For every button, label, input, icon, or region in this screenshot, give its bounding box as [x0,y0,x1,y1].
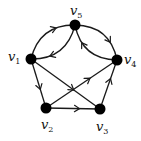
node-v1 [26,54,37,65]
node-v5 [70,20,81,31]
label-v1: v1 [8,50,20,66]
label-v2: v2 [41,118,53,134]
nodes [26,20,123,115]
edges [31,25,117,109]
edge-v2-v3 [46,108,100,109]
arrowheads [36,27,112,112]
label-v3: v3 [96,120,108,136]
node-v4 [112,55,123,66]
edge-v3-v4 [100,60,117,109]
directed-graph [0,0,141,141]
edge-v2-v4 [46,60,117,108]
node-v3 [95,104,106,115]
node-v2 [41,103,52,114]
label-v5: v5 [70,4,82,20]
edge-v1-v2 [31,59,46,108]
label-v4: v4 [124,53,136,69]
